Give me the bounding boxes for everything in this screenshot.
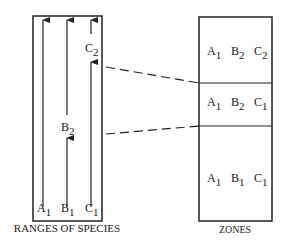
zone-middle: A1 B2 C1 — [207, 95, 268, 112]
zone-top-taxon-1: A1 — [207, 44, 221, 61]
zone-bottom: A1 B1 C1 — [207, 171, 268, 188]
zone-top-taxon-3: C2 — [254, 44, 268, 61]
zone-middle-taxon-2: B2 — [231, 95, 245, 112]
ranges-caption: RANGES OF SPECIES — [14, 222, 120, 234]
zone-bottom-taxon-3: C1 — [254, 171, 268, 188]
label-a1: A1 — [37, 201, 51, 218]
zone-bottom-taxon-1: A1 — [207, 171, 221, 188]
ranges-panel: C2 B2 A1 B1 C1 RANGES OF SPECIES — [14, 16, 120, 234]
label-c1: C1 — [85, 201, 99, 218]
label-b2: B2 — [61, 120, 75, 137]
zone-bottom-taxon-2: B1 — [231, 171, 245, 188]
label-b1: B1 — [61, 201, 75, 218]
zone-top: A1 B2 C2 — [207, 44, 268, 61]
correlation-line-lower — [106, 126, 199, 134]
zone-middle-taxon-3: C1 — [254, 95, 268, 112]
zone-top-taxon-2: B2 — [231, 44, 245, 61]
correlation-line-upper — [106, 67, 199, 83]
species-range-zone-diagram: C2 B2 A1 B1 C1 RANGES OF SPECIES A1 B2 C… — [0, 0, 283, 242]
zones-panel: A1 B2 C2 A1 B2 C1 A1 B1 C1 ZONES — [199, 17, 272, 235]
zone-middle-taxon-1: A1 — [207, 95, 221, 112]
label-c2: C2 — [85, 41, 99, 58]
zones-caption: ZONES — [219, 224, 251, 235]
